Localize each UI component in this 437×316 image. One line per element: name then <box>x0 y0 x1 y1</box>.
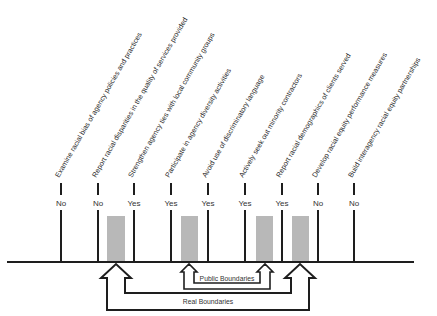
real-boundary-zone-left <box>107 216 125 262</box>
item-column-9: Build interagency racial equity partners… <box>346 55 423 262</box>
item-label: Participate in agency diversity activiti… <box>163 66 233 179</box>
answer-label: No <box>56 199 67 208</box>
answer-label: Yes <box>238 199 251 208</box>
answer-label: No <box>349 199 360 208</box>
item-label: Actively seek out minority contractors <box>237 71 304 179</box>
answer-label: Yes <box>275 199 288 208</box>
answer-label: Yes <box>201 199 214 208</box>
real-boundary-zone-right <box>292 216 309 262</box>
real-boundaries-label: Real Boundaries <box>183 298 234 305</box>
item-label: Report racial demographics of clients se… <box>274 52 353 179</box>
boundaries-diagram: Examine racial bias of agency policies a… <box>0 0 437 316</box>
item-label: Develop racial equity performance measur… <box>310 51 389 179</box>
answer-label: Yes <box>127 199 140 208</box>
item-column-7: Report racial demographics of clients se… <box>274 52 353 262</box>
answer-label: No <box>93 199 104 208</box>
item-label: Avoid use of discriminatory language <box>200 73 266 179</box>
public-boundary-zone-left <box>181 216 198 262</box>
item-label: Build interagency racial equity partners… <box>346 55 423 179</box>
answer-label: Yes <box>164 199 177 208</box>
answer-label: No <box>313 199 324 208</box>
public-boundary-zone-right <box>256 216 273 262</box>
item-column-8: Develop racial equity performance measur… <box>310 51 389 262</box>
item-column-2: Report racial disparities in the quality… <box>90 16 189 262</box>
public-boundaries-label: Public Boundaries <box>200 275 255 282</box>
